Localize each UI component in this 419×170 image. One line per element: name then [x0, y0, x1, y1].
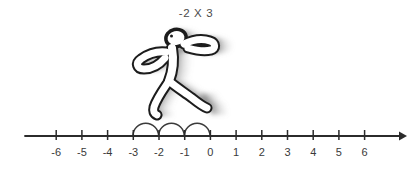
- tick-label-3: 3: [284, 146, 290, 158]
- tick-label-6: 6: [362, 146, 368, 158]
- background: [0, 0, 419, 170]
- tick-label-0: 0: [207, 146, 213, 158]
- eye-icon: [170, 35, 173, 38]
- tick-label-4: 4: [310, 146, 316, 158]
- tick-label--3: -3: [128, 146, 138, 158]
- illustration-canvas: -2 X 3: [0, 0, 419, 170]
- page-title: -2 X 3: [179, 7, 213, 19]
- tick-label-2: 2: [259, 146, 265, 158]
- tick-label--5: -5: [77, 146, 87, 158]
- tick-label-1: 1: [233, 146, 239, 158]
- torso-fill: [169, 48, 173, 81]
- tick-label--1: -1: [180, 146, 190, 158]
- tick-label--4: -4: [103, 146, 113, 158]
- tick-label--2: -2: [154, 146, 164, 158]
- tick-label-5: 5: [336, 146, 342, 158]
- number-line-illustration: -2 X 3: [0, 0, 419, 170]
- tick-label--6: -6: [51, 146, 61, 158]
